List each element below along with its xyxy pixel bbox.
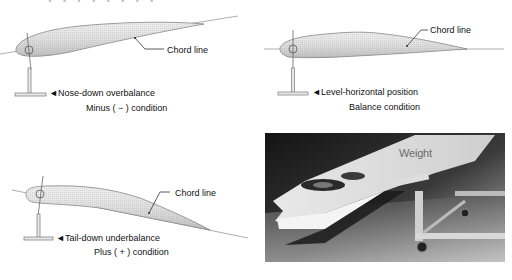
diagram-tail-down: Chord line ◄Tail-down underbalance Plus … <box>0 140 256 280</box>
diagram-level: Chord line ◄Level-horizontal position Ba… <box>256 0 512 130</box>
photo-illustration <box>265 133 505 262</box>
stand-base <box>278 92 308 95</box>
chord-line-label: Chord line <box>167 45 208 55</box>
status-label: ◄Tail-down underbalance <box>56 233 160 243</box>
diagram-nose-down: Chord line ◄Nose-down overbalance Minus … <box>0 0 256 130</box>
condition-label: Balance condition <box>349 102 420 112</box>
condition-label: Plus ( + ) condition <box>94 247 169 257</box>
stand-post <box>292 68 295 93</box>
status-label: ◄Nose-down overbalance <box>49 88 155 98</box>
condition-label: Minus ( − ) condition <box>86 103 167 113</box>
stand-base <box>24 237 53 240</box>
weight-photo: Weight <box>265 133 505 262</box>
stand-post <box>28 68 31 94</box>
stand-base <box>15 93 46 96</box>
stand-post <box>37 214 40 238</box>
status-label: ◄Level-horizontal position <box>312 87 418 97</box>
chord-line-label: Chord line <box>175 188 216 198</box>
chord-line-label: Chord line <box>430 25 471 35</box>
weight-label: Weight <box>399 147 432 159</box>
